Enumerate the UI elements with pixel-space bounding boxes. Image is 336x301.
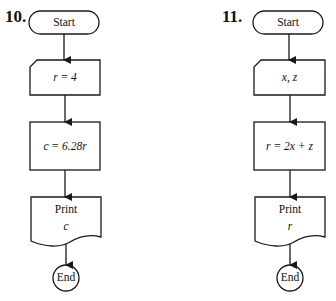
output-variable: r	[255, 220, 325, 232]
end-label: End	[46, 271, 86, 283]
process-label: r = 2x + z	[254, 140, 325, 152]
start-label: Start	[253, 16, 323, 28]
input-label: r = 4	[30, 71, 100, 83]
output-label: Print	[31, 203, 101, 215]
end-label: End	[270, 271, 310, 283]
process-label: c = 6.28r	[30, 140, 100, 152]
output-label: Print	[255, 203, 325, 215]
problem-number: 11.	[222, 7, 242, 27]
problem-number: 10.	[5, 7, 26, 27]
output-variable: c	[31, 220, 101, 232]
start-label: Start	[29, 16, 99, 28]
input-label: x, z	[254, 71, 325, 83]
